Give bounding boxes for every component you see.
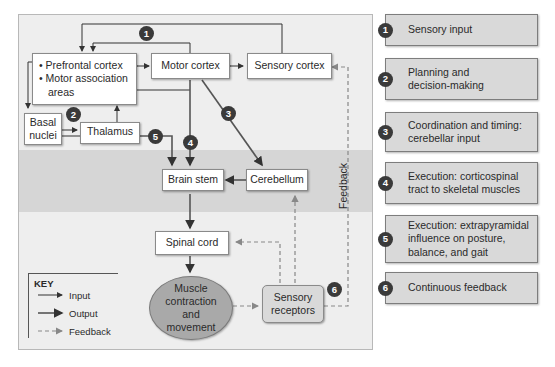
cerebellum-box: Cerebellum — [246, 169, 308, 191]
legend-badge-3: 3 — [378, 125, 393, 140]
legend-text-4: Execution: corticospinal tract to skelet… — [408, 170, 534, 196]
legend-text-3: Coordination and timing: cerebellar inpu… — [408, 119, 534, 145]
motor-association-label: • Motor association areas — [39, 72, 136, 98]
sensory-cortex-label: Sensory cortex — [254, 59, 324, 72]
legend-text-1: Sensory input — [408, 23, 472, 36]
basal-nuclei-box: Basal nuclei — [24, 113, 62, 145]
legend-text-2: Planning and decision-making — [408, 66, 498, 92]
thalamus-box: Thalamus — [80, 122, 140, 144]
legend-badge-6: 6 — [378, 281, 393, 296]
key-title: KEY — [34, 278, 54, 289]
key-input-label: Input — [69, 290, 90, 301]
sensory-cortex-box: Sensory cortex — [247, 53, 332, 79]
basal-nuclei-label: Basal nuclei — [25, 116, 61, 142]
key-feedback-label: Feedback — [69, 326, 111, 337]
legend-badge-4: 4 — [378, 176, 393, 191]
prefrontal-label: • Prefrontal cortex — [39, 59, 123, 72]
legend-text-6: Continuous feedback — [408, 281, 507, 294]
brain-stem-label: Brain stem — [168, 173, 218, 186]
badge-4: 4 — [183, 135, 198, 150]
legend-item-2: 2 Planning and decision-making — [385, 58, 538, 100]
motor-cortex-label: Motor cortex — [161, 59, 219, 72]
legend-item-3: 3 Coordination and timing: cerebellar in… — [385, 112, 538, 152]
spinal-cord-box: Spinal cord — [155, 231, 229, 255]
key-box: KEY Input Output Feedback — [28, 273, 118, 338]
prefrontal-cortex-box: • Prefrontal cortex • Motor association … — [32, 53, 137, 105]
legend-item-6: 6 Continuous feedback — [385, 272, 538, 304]
muscle-contraction-oval: Muscle contraction and movement — [149, 276, 233, 340]
legend-item-5: 5 Execution: extrapyramidal influence on… — [385, 215, 538, 263]
legend-item-1: 1 Sensory input — [385, 14, 538, 46]
spinal-cord-label: Spinal cord — [166, 236, 219, 249]
legend-badge-2: 2 — [378, 72, 393, 87]
sensory-receptors-box: Sensory receptors — [262, 285, 324, 323]
feedback-label: Feedback — [337, 163, 349, 209]
badge-5: 5 — [148, 129, 163, 144]
muscle-label: Muscle contraction and movement — [158, 282, 224, 335]
thalamus-label: Thalamus — [87, 125, 133, 138]
cerebellum-label: Cerebellum — [250, 173, 304, 186]
badge-1: 1 — [139, 26, 154, 41]
legend-badge-1: 1 — [378, 23, 393, 38]
badge-2: 2 — [66, 107, 81, 122]
sensory-receptors-label: Sensory receptors — [263, 291, 323, 317]
motor-cortex-box: Motor cortex — [151, 53, 230, 79]
brain-stem-box: Brain stem — [162, 169, 224, 191]
legend-item-4: 4 Execution: corticospinal tract to skel… — [385, 162, 538, 204]
legend-badge-5: 5 — [378, 232, 393, 247]
legend-text-5: Execution: extrapyramidal influence on p… — [408, 219, 534, 258]
badge-3: 3 — [221, 106, 236, 121]
badge-6: 6 — [327, 282, 342, 297]
key-output-label: Output — [69, 308, 98, 319]
